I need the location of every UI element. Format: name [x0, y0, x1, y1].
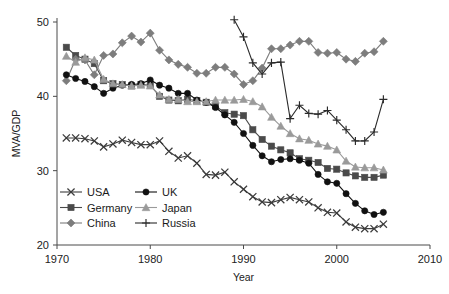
data-point	[306, 160, 312, 166]
data-point	[314, 140, 322, 147]
data-point	[295, 37, 303, 45]
data-point	[258, 103, 266, 110]
data-point	[211, 63, 219, 71]
legend-item-germany[interactable]: Germany	[60, 202, 133, 214]
data-point	[240, 95, 248, 102]
legend-item-uk[interactable]: UK	[135, 186, 178, 198]
data-point	[156, 137, 163, 144]
data-point	[143, 189, 149, 195]
data-point	[100, 143, 107, 150]
data-point	[212, 104, 218, 110]
data-point	[380, 221, 387, 228]
data-point	[379, 95, 387, 103]
data-point	[268, 159, 274, 165]
data-point	[380, 209, 386, 215]
y-tick-label-20: 20	[37, 239, 49, 251]
data-point	[315, 171, 321, 177]
y-tick-label-30: 30	[37, 165, 49, 177]
y-tick-label-40: 40	[37, 90, 49, 102]
data-point	[287, 150, 293, 156]
x-tick-label-2010: 2010	[418, 253, 442, 265]
data-point	[156, 82, 162, 88]
data-point	[174, 60, 182, 68]
data-point	[287, 194, 294, 201]
data-point	[278, 156, 284, 162]
x-tick-label-1980: 1980	[138, 253, 162, 265]
data-point	[371, 174, 377, 180]
legend-label-usa: USA	[87, 186, 110, 198]
data-point	[343, 218, 350, 225]
data-point	[314, 110, 322, 118]
data-point	[249, 77, 257, 85]
data-point	[286, 41, 294, 49]
data-point	[250, 142, 256, 148]
data-point	[362, 174, 368, 180]
data-point	[277, 45, 285, 53]
data-point	[67, 219, 75, 227]
line-chart: 5040302019701980199020002010YearMVA/GDPU…	[0, 0, 449, 294]
data-point	[221, 169, 228, 176]
data-point	[334, 180, 340, 186]
data-point	[73, 75, 79, 81]
data-point	[315, 204, 322, 211]
data-point	[128, 32, 136, 40]
data-point	[240, 130, 246, 136]
data-point	[193, 160, 200, 167]
y-axis-title: MVA/GDP	[10, 110, 22, 158]
data-point	[287, 156, 293, 162]
data-point	[231, 119, 237, 125]
series-china	[62, 29, 387, 88]
data-point	[119, 137, 126, 144]
data-point	[371, 211, 377, 217]
data-point	[278, 147, 284, 153]
data-point	[91, 137, 98, 144]
data-point	[100, 51, 108, 59]
data-point	[343, 170, 349, 176]
legend-item-russia[interactable]: Russia	[135, 217, 197, 229]
data-point	[184, 90, 190, 96]
data-point	[286, 115, 294, 123]
data-point	[63, 72, 69, 78]
data-point	[323, 49, 331, 57]
data-point	[175, 154, 182, 161]
legend-item-usa[interactable]: USA	[60, 186, 110, 198]
data-point	[296, 196, 303, 203]
data-point	[352, 173, 358, 179]
data-point	[62, 52, 70, 59]
data-point	[184, 152, 191, 159]
data-point	[231, 111, 237, 117]
legend-label-japan: Japan	[162, 202, 192, 214]
data-point	[221, 63, 229, 71]
data-point	[315, 159, 321, 165]
legend-label-china: China	[87, 217, 117, 229]
data-point	[128, 139, 135, 146]
data-point	[268, 143, 274, 149]
x-tick-label-2000: 2000	[325, 253, 349, 265]
series-line-china	[66, 33, 383, 84]
data-point	[259, 153, 265, 159]
data-point	[142, 219, 150, 227]
data-point	[342, 55, 350, 63]
data-point	[239, 33, 247, 41]
data-point	[184, 63, 192, 71]
data-point	[333, 48, 341, 56]
y-tick-label-50: 50	[37, 16, 49, 28]
data-point	[249, 193, 256, 200]
data-point	[101, 90, 107, 96]
data-point	[296, 157, 302, 163]
data-point	[63, 44, 69, 50]
data-point	[166, 85, 172, 91]
data-point	[362, 208, 368, 214]
legend-item-japan[interactable]: Japan	[135, 202, 192, 214]
data-point	[334, 166, 340, 172]
data-point	[202, 69, 210, 77]
data-point	[343, 191, 349, 197]
x-tick-label-1970: 1970	[45, 253, 69, 265]
data-point	[305, 198, 312, 205]
data-point	[165, 148, 172, 155]
data-point	[109, 140, 116, 147]
x-axis-title: Year	[233, 271, 255, 283]
data-point	[333, 146, 341, 153]
data-point	[296, 135, 304, 142]
legend-item-china[interactable]: China	[60, 217, 117, 229]
